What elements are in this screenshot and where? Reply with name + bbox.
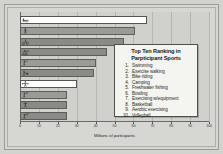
legend-title: Top Ten Ranking in Parpticipant Sports xyxy=(119,48,193,61)
exercising-equipment-icon xyxy=(21,81,30,87)
bar-row xyxy=(20,16,209,24)
bike-riding-icon xyxy=(21,39,30,45)
bar-row xyxy=(20,27,209,35)
x-axis-tick-label: 100 xyxy=(206,124,212,128)
x-axis-tick-label: 70 xyxy=(150,124,154,128)
legend-title-line-2: Parpticipant Sports xyxy=(119,55,193,62)
x-axis-tick-label: 0 xyxy=(19,124,21,128)
bar-swimming xyxy=(20,16,147,24)
legend-list: 1.Swimming2.Exercise walking3.Bike ridin… xyxy=(119,63,193,118)
x-axis-tick-label: 30 xyxy=(75,124,79,128)
aerobic-exercising-icon xyxy=(21,102,30,108)
bowling-icon xyxy=(21,70,30,76)
legend-box: Top Ten Ranking in Parpticipant Sports 1… xyxy=(114,44,198,117)
basketball-icon xyxy=(21,92,30,98)
bar-camping xyxy=(20,48,107,56)
x-axis-tick-label: 50 xyxy=(113,124,117,128)
x-axis-tick-label: 90 xyxy=(188,124,192,128)
legend-item-label: Volleyball xyxy=(132,113,150,119)
x-axis-tick-label: 80 xyxy=(169,124,173,128)
bar-bowling xyxy=(20,69,94,77)
x-axis-tick-label: 40 xyxy=(94,124,98,128)
swimming-icon xyxy=(21,17,30,23)
legend-item-number: 10. xyxy=(119,113,132,119)
bar-bike-riding xyxy=(20,38,124,46)
x-axis-tick-label: 60 xyxy=(131,124,135,128)
bar-exercise-walking xyxy=(20,27,135,35)
camping-icon xyxy=(21,49,30,55)
volleyball-icon xyxy=(21,113,30,119)
legend-item: 10.Volleyball xyxy=(119,113,193,119)
x-axis-tick-label: 10 xyxy=(37,124,41,128)
x-axis-label: Millions of participants xyxy=(20,133,209,138)
chart-figure: 0102030405060708090100 Millions of parti… xyxy=(0,0,223,154)
exercise-walking-icon xyxy=(21,28,30,34)
bar-freshwater-fishing xyxy=(20,59,96,67)
gridline xyxy=(209,12,210,122)
x-axis-tick-label: 20 xyxy=(56,124,60,128)
freshwater-fishing-icon xyxy=(21,60,30,66)
legend-title-line-1: Top Ten Ranking in xyxy=(119,48,193,55)
